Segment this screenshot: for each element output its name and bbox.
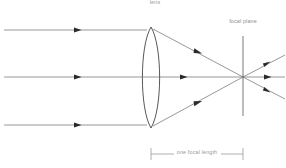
incoming-rays-group — [4, 28, 151, 128]
incoming-ray-top-arrowhead — [74, 28, 82, 33]
biconvex-lens — [142, 27, 159, 128]
lens-label: lens — [150, 0, 161, 5]
converging-ray-lower-arrowhead — [194, 101, 203, 106]
converging-rays-group — [151, 29, 244, 126]
ray-diagram-figure: lens focal plane one focal length — [0, 0, 286, 168]
lens-outline — [142, 27, 159, 128]
converging-ray-axial-arrowhead — [180, 75, 188, 80]
focal-plane-label: focal plane — [229, 19, 257, 24]
incoming-ray-middle-arrowhead — [74, 75, 82, 80]
converging-ray-upper-arrowhead — [194, 48, 203, 53]
incoming-ray-bottom-arrowhead — [74, 123, 82, 128]
diverging-ray-axial-arrowhead — [264, 75, 272, 80]
focal-length-label: one focal length — [177, 150, 217, 155]
diverging-rays-group — [243, 55, 285, 99]
optics-diagram-canvas — [0, 0, 286, 168]
